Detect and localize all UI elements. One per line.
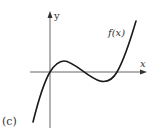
x-axis-arrow-icon	[140, 70, 147, 75]
panel-label: (c)	[2, 115, 17, 128]
function-graph: y x f(x) (c)	[0, 0, 152, 139]
x-axis-label: x	[140, 58, 146, 69]
y-axis-arrow-icon	[48, 11, 53, 18]
y-axis-label: y	[53, 10, 60, 21]
function-label: f(x)	[107, 27, 125, 38]
